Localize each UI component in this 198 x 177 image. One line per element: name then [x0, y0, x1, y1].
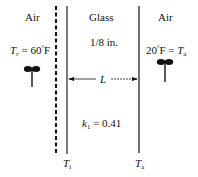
temp-value: = 60	[22, 44, 42, 56]
left-temperature-label: Tr = 60°F	[10, 45, 50, 58]
right-temperature-label: 20°F = Ta	[146, 45, 186, 58]
right-air-label: Air	[158, 12, 173, 23]
diagram-lines	[0, 0, 198, 177]
conductivity-subscript: 1	[87, 123, 91, 131]
fan-icon	[24, 66, 40, 87]
temp-value: 20	[146, 44, 157, 56]
temp-subscript: a	[183, 50, 186, 58]
conductivity-value: = 0.41	[93, 117, 121, 129]
outer-surface-temperature-label: Ta	[135, 158, 144, 171]
fan-icon	[157, 59, 173, 82]
glass-heat-conduction-diagram: Air Tr = 60°F Glass 1/8 in. L k1 = 0.41 …	[0, 0, 198, 177]
temp-unit: F =	[159, 44, 174, 56]
temp-unit: F	[44, 44, 50, 56]
temp-subscript: i	[69, 163, 71, 171]
inner-surface-temperature-label: Ti	[63, 158, 71, 171]
conductivity-label: k1 = 0.41	[82, 118, 121, 131]
temp-subscript: r	[16, 50, 19, 58]
length-label: L	[100, 74, 106, 85]
glass-thickness-label: 1/8 in.	[90, 37, 118, 48]
left-air-label: Air	[25, 12, 40, 23]
temp-subscript: a	[141, 163, 144, 171]
glass-label: Glass	[89, 12, 113, 23]
